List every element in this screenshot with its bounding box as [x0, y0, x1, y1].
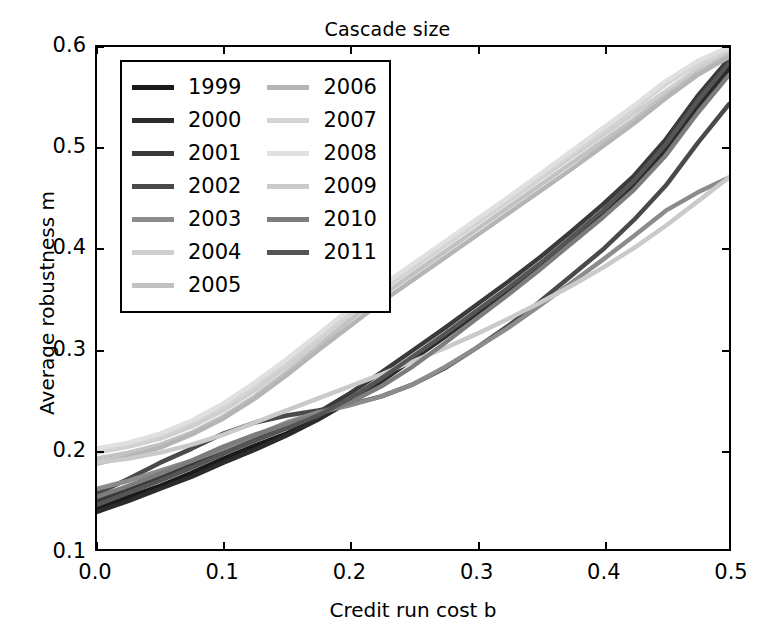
y-tick-mark [97, 147, 104, 149]
x-tick-mark [350, 542, 352, 549]
legend-item-label: 2010 [323, 209, 376, 230]
legend-item-2002[interactable]: 2002 [132, 170, 241, 203]
legend-line-icon [132, 118, 174, 123]
legend-line-icon [132, 151, 174, 156]
x-tick-label: 0.5 [686, 560, 775, 584]
x-axis-tick-labels: 0.00.10.20.30.40.5 [0, 560, 775, 594]
legend-line-icon [267, 250, 309, 255]
y-tick-label: 0.5 [12, 134, 86, 158]
x-tick-mark [478, 47, 480, 54]
legend-item-label: 2011 [323, 242, 376, 263]
x-tick-label: 0.2 [304, 560, 394, 584]
legend-item-2008[interactable]: 2008 [267, 137, 376, 170]
y-tick-mark [97, 248, 104, 250]
x-tick-mark [605, 542, 607, 549]
y-tick-mark [97, 350, 104, 352]
legend-item-2005[interactable]: 2005 [132, 269, 241, 302]
x-tick-label: 0.3 [432, 560, 522, 584]
x-tick-mark [223, 47, 225, 54]
x-tick-mark [96, 542, 98, 549]
y-tick-mark [722, 350, 729, 352]
legend-line-icon [267, 118, 309, 123]
legend-line-icon [132, 283, 174, 288]
chart-title: Cascade size [0, 18, 775, 40]
legend-item-label: 2000 [188, 110, 241, 131]
y-axis-tick-labels: 0.10.20.30.40.50.6 [0, 0, 86, 634]
legend-item-label: 1999 [188, 77, 241, 98]
y-tick-label: 0.2 [12, 438, 86, 462]
y-tick-label: 0.4 [12, 235, 86, 259]
legend: 1999200020012002200320042005 20062007200… [120, 60, 391, 313]
legend-item-label: 2007 [323, 110, 376, 131]
legend-line-icon [132, 184, 174, 189]
y-tick-mark [722, 147, 729, 149]
y-tick-mark [97, 46, 104, 48]
legend-item-label: 2002 [188, 176, 241, 197]
x-tick-mark [478, 542, 480, 549]
legend-item-2007[interactable]: 2007 [267, 104, 376, 137]
chart-figure: Cascade size Average robustness m 0.10.2… [0, 0, 775, 634]
legend-item-label: 2001 [188, 143, 241, 164]
y-tick-mark [722, 451, 729, 453]
legend-line-icon [132, 217, 174, 222]
legend-column-left: 1999200020012002200320042005 [132, 71, 241, 302]
legend-line-icon [267, 217, 309, 222]
legend-item-label: 2003 [188, 209, 241, 230]
x-tick-mark [96, 47, 98, 54]
x-tick-mark [223, 542, 225, 549]
legend-item-2001[interactable]: 2001 [132, 137, 241, 170]
legend-line-icon [267, 184, 309, 189]
legend-line-icon [267, 151, 309, 156]
legend-column-right: 200620072008200920102011 [267, 71, 376, 302]
x-tick-mark [350, 47, 352, 54]
legend-item-2004[interactable]: 2004 [132, 236, 241, 269]
y-tick-mark [722, 248, 729, 250]
legend-item-2011[interactable]: 2011 [267, 236, 376, 269]
legend-line-icon [132, 85, 174, 90]
legend-item-label: 2004 [188, 242, 241, 263]
y-tick-mark [97, 451, 104, 453]
y-tick-label: 0.6 [12, 33, 86, 57]
legend-item-label: 2008 [323, 143, 376, 164]
y-tick-mark [722, 46, 729, 48]
plot-area: 1999200020012002200320042005 20062007200… [95, 45, 731, 551]
x-tick-mark [605, 47, 607, 54]
legend-item-1999[interactable]: 1999 [132, 71, 241, 104]
legend-item-label: 2005 [188, 275, 241, 296]
x-axis-title: Credit run cost b [95, 598, 731, 622]
legend-line-icon [132, 250, 174, 255]
y-tick-label: 0.3 [12, 337, 86, 361]
x-tick-label: 0.1 [177, 560, 267, 584]
legend-item-2009[interactable]: 2009 [267, 170, 376, 203]
legend-item-label: 2009 [323, 176, 376, 197]
legend-item-2003[interactable]: 2003 [132, 203, 241, 236]
legend-item-2006[interactable]: 2006 [267, 71, 376, 104]
legend-item-2010[interactable]: 2010 [267, 203, 376, 236]
legend-line-icon [267, 85, 309, 90]
x-tick-label: 0.0 [50, 560, 140, 584]
legend-item-2000[interactable]: 2000 [132, 104, 241, 137]
x-tick-label: 0.4 [559, 560, 649, 584]
legend-item-label: 2006 [323, 77, 376, 98]
